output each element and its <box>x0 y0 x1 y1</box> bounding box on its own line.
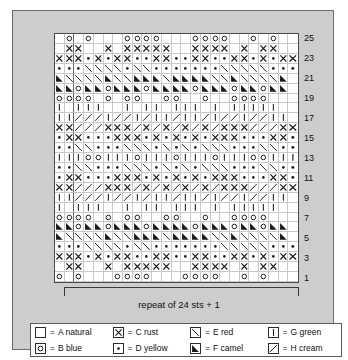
chart-cell <box>249 34 259 44</box>
chart-cell <box>211 213 221 223</box>
chart-cell <box>152 84 162 94</box>
chart-cell <box>94 113 104 123</box>
symbol-D-icon <box>220 54 229 63</box>
symbol-D-icon <box>191 64 200 73</box>
chart-cell <box>201 272 211 282</box>
chart-cell <box>288 203 298 213</box>
chart-cell <box>230 64 240 74</box>
chart-cell <box>279 272 289 282</box>
symbol-D-icon <box>240 173 249 182</box>
symbol-F-icon <box>123 222 132 231</box>
symbol-G-icon <box>230 203 239 212</box>
chart-cell <box>249 242 259 252</box>
chart-cell <box>259 232 269 242</box>
chart-cell <box>181 94 191 104</box>
chart-cell <box>104 173 114 183</box>
symbol-E-icon <box>123 232 132 241</box>
symbol-X-icon <box>113 183 122 192</box>
symbol-D-icon <box>249 163 258 172</box>
chart-cell <box>84 123 94 133</box>
symbol-F-icon <box>142 74 151 83</box>
chart-cell <box>104 113 114 123</box>
chart-cell <box>84 113 94 123</box>
symbol-F-icon <box>172 232 181 241</box>
chart-cell <box>104 252 114 262</box>
symbol-D-icon <box>191 242 200 251</box>
symbol-F-icon <box>279 232 288 241</box>
chart-cell <box>211 113 221 123</box>
chart-cell <box>279 262 289 272</box>
chart-cell <box>142 153 152 163</box>
chart-cell <box>279 44 289 54</box>
chart-cell <box>269 64 279 74</box>
chart-cell <box>191 153 201 163</box>
chart-cell <box>191 103 201 113</box>
chart-cell <box>259 34 269 44</box>
chart-cell <box>55 163 65 173</box>
symbol-X-icon <box>191 54 200 63</box>
symbol-F-icon <box>279 222 288 231</box>
symbol-G-icon <box>133 193 142 202</box>
chart-cell <box>142 232 152 242</box>
chart-cell <box>191 94 201 104</box>
symbol-X-icon <box>288 183 298 192</box>
row-number: 23 <box>304 53 330 63</box>
symbol-F-icon <box>55 84 64 93</box>
chart-cell <box>181 84 191 94</box>
symbol-D-icon <box>104 163 113 172</box>
chart-cell <box>94 54 104 64</box>
chart-cell <box>181 133 191 143</box>
symbol-X-icon <box>123 54 132 63</box>
chart-cell <box>181 173 191 183</box>
chart-cell <box>74 44 84 54</box>
symbol-D-icon <box>172 163 181 172</box>
symbol-G-icon <box>191 193 200 202</box>
symbol-D-icon <box>94 173 103 182</box>
symbol-D-icon <box>55 143 64 152</box>
chart-cell <box>240 183 250 193</box>
symbol-O-icon <box>123 213 132 222</box>
symbol-X-icon <box>279 54 288 63</box>
symbol-F-icon <box>113 84 122 93</box>
chart-cell <box>123 163 133 173</box>
symbol-O-icon <box>230 94 239 103</box>
symbol-E-icon <box>74 232 83 241</box>
chart-cell <box>172 34 182 44</box>
symbol-O-icon <box>74 94 83 103</box>
symbol-X-icon <box>142 183 151 192</box>
chart-cell <box>172 203 182 213</box>
symbol-E-icon <box>84 64 93 73</box>
chart-cell <box>113 84 123 94</box>
chart-cell <box>279 173 289 183</box>
chart-cell <box>65 54 75 64</box>
symbol-E-icon <box>74 163 83 172</box>
chart-cell <box>269 163 279 173</box>
symbol-F-icon <box>104 232 113 241</box>
chart-cell <box>84 173 94 183</box>
symbol-O-icon <box>259 84 268 93</box>
chart-cell <box>191 54 201 64</box>
symbol-E-icon <box>269 163 278 172</box>
symbol-X-icon <box>74 173 83 182</box>
symbol-F-icon <box>84 84 93 93</box>
symbol-X-icon <box>269 133 278 142</box>
chart-cell <box>65 103 75 113</box>
chart-cell <box>152 242 162 252</box>
symbol-G-icon <box>172 203 181 212</box>
symbol-G-icon <box>279 113 288 122</box>
chart-cell <box>220 193 230 203</box>
chart-cell <box>142 213 152 223</box>
chart-cell <box>142 262 152 272</box>
chart-cell <box>113 103 123 113</box>
chart-cell <box>104 74 114 84</box>
symbol-X-icon <box>65 252 74 261</box>
symbol-X-icon <box>113 252 122 261</box>
chart-cell <box>269 103 279 113</box>
chart-cell <box>65 133 75 143</box>
chart-cell <box>230 143 240 153</box>
symbol-D-icon <box>172 242 181 251</box>
symbol-D-icon <box>162 64 171 73</box>
symbol-F-icon <box>230 74 239 83</box>
chart-cell <box>152 193 162 203</box>
chart-cell <box>220 232 230 242</box>
